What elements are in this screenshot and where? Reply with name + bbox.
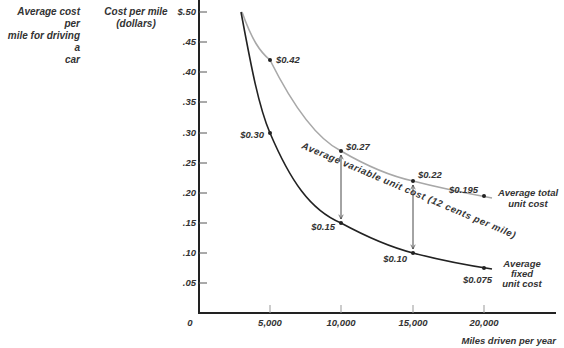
y-tick-labels: $.50 .45 .40 .35 .30 .25 .20 .15 .10 .05 — [177, 6, 197, 288]
fixed-cost-points — [268, 131, 486, 270]
y-tick-label: .40 — [183, 66, 197, 77]
x-tick-label: 5,000 — [258, 317, 282, 328]
y-tick-label: .05 — [183, 277, 197, 288]
y-tick-label: .35 — [183, 96, 197, 107]
x-tick-labels: 0 5,000 10,000 15,000 20,000 — [187, 317, 499, 328]
y-tick-label: $.50 — [177, 6, 197, 17]
y-tick-label: .25 — [183, 157, 197, 168]
x-tick-label: 10,000 — [326, 317, 356, 328]
chart-canvas: $.50 .45 .40 .35 .30 .25 .20 .15 .10 .05… — [0, 0, 564, 348]
point-label: $0.42 — [275, 54, 300, 65]
point-label: $0.22 — [417, 169, 442, 180]
point-label: $0.27 — [345, 141, 370, 152]
fixed-cost-legend-label: Average fixed unit cost — [502, 258, 542, 289]
x-ticks — [270, 305, 484, 313]
y-tick-label: .15 — [183, 217, 197, 228]
point-label: $0.075 — [462, 274, 493, 285]
y-tick-label: .45 — [183, 36, 197, 47]
series-label-line: unit cost — [502, 278, 542, 289]
series-label-line: Average total — [497, 187, 559, 198]
point-label: $0.30 — [239, 129, 264, 140]
series-label-line: unit cost — [508, 198, 548, 209]
x-axis-title: Miles driven per year — [461, 335, 557, 346]
point-label: $0.15 — [310, 221, 335, 232]
y-tick-label: .10 — [183, 247, 197, 258]
y-tick-label: .20 — [183, 187, 197, 198]
point-label: $0.195 — [448, 184, 479, 195]
total-cost-legend-label: Average total unit cost — [497, 187, 559, 209]
point-label: $0.10 — [382, 253, 407, 264]
y-ticks — [199, 12, 207, 283]
x-tick-label: 20,000 — [468, 317, 499, 328]
x-tick-label: 15,000 — [398, 317, 428, 328]
y-tick-label: .30 — [183, 127, 197, 138]
x-tick-label: 0 — [187, 317, 193, 328]
